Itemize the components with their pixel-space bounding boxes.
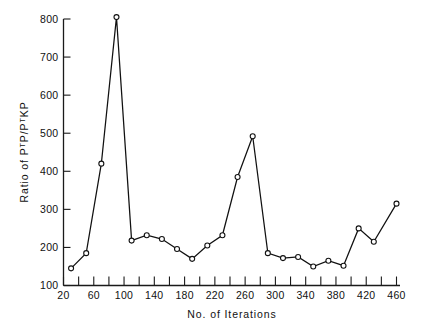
data-point: 50, 185 bbox=[84, 251, 89, 256]
data-point: 370, 165 bbox=[326, 258, 331, 263]
x-tick-label: 140 bbox=[145, 289, 163, 301]
y-tick-label: 800 bbox=[40, 13, 58, 25]
data-point: 270, 492 bbox=[250, 134, 255, 139]
data-point: 330, 175 bbox=[296, 254, 301, 259]
data-point: 410, 250 bbox=[356, 226, 361, 231]
x-tick-label: 60 bbox=[88, 289, 100, 301]
data-point: 350, 150 bbox=[311, 264, 316, 269]
chart-page: 100200300400500600700800 206010014018022… bbox=[0, 0, 426, 330]
x-tick-label: 20 bbox=[57, 289, 69, 301]
data-point: 290, 185 bbox=[265, 251, 270, 256]
data-point: 250, 385 bbox=[235, 175, 240, 180]
x-tick-label: 460 bbox=[387, 289, 405, 301]
x-tick-label: 220 bbox=[206, 289, 224, 301]
x-tick-label: 100 bbox=[115, 289, 133, 301]
data-point: 30, 145 bbox=[69, 266, 74, 271]
data-point: 90, 805 bbox=[114, 15, 119, 20]
series-line-ptp-ptkp bbox=[71, 17, 396, 268]
data-point: 210, 205 bbox=[205, 243, 210, 248]
x-tick-label: 420 bbox=[357, 289, 375, 301]
y-tick-label: 200 bbox=[40, 241, 58, 253]
x-tick-label: 260 bbox=[236, 289, 254, 301]
series-markers: 30, 14550, 18570, 42090, 805110, 218130,… bbox=[69, 15, 399, 271]
data-point: 460, 315 bbox=[394, 201, 399, 206]
x-tick-label: 340 bbox=[296, 289, 314, 301]
data-point: 70, 420 bbox=[99, 161, 104, 166]
data-point: 230, 232 bbox=[220, 233, 225, 238]
y-axis-title-mid: P/P bbox=[18, 123, 30, 143]
data-point: 430, 215 bbox=[371, 239, 376, 244]
data-point: 310, 172 bbox=[280, 256, 285, 261]
data-point: 150, 222 bbox=[159, 237, 164, 242]
svg-text:Ratio of PTP/PTKP: Ratio of PTP/PTKP bbox=[18, 101, 30, 202]
data-point: 170, 196 bbox=[175, 246, 180, 251]
y-tick-label: 100 bbox=[40, 279, 58, 291]
x-axis-ticks bbox=[64, 277, 397, 286]
x-axis-title: No. of Iterations bbox=[187, 308, 276, 320]
y-axis-title-prefix: Ratio of P bbox=[18, 147, 30, 202]
y-tick-label: 700 bbox=[40, 51, 58, 63]
x-tick-label: 180 bbox=[175, 289, 193, 301]
y-axis-ticks bbox=[64, 19, 71, 286]
y-axis-tick-labels: 100200300400500600700800 bbox=[40, 13, 58, 292]
x-tick-label: 380 bbox=[327, 289, 345, 301]
data-point: 190, 170 bbox=[190, 256, 195, 261]
data-point: 110, 218 bbox=[129, 238, 134, 243]
y-tick-label: 300 bbox=[40, 203, 58, 215]
x-tick-label: 300 bbox=[266, 289, 284, 301]
line-chart: 100200300400500600700800 206010014018022… bbox=[0, 0, 426, 330]
y-tick-label: 500 bbox=[40, 127, 58, 139]
chart-axes bbox=[64, 19, 401, 286]
y-tick-label: 400 bbox=[40, 165, 58, 177]
y-tick-label: 600 bbox=[40, 89, 58, 101]
y-axis-title-suffix: KP bbox=[18, 101, 30, 117]
data-point: 390, 152 bbox=[341, 263, 346, 268]
data-point: 130, 232 bbox=[144, 233, 149, 238]
x-axis-tick-labels: 2060100140180220260300340380420460 bbox=[57, 289, 405, 301]
y-axis-title: Ratio of PTP/PTKP bbox=[18, 101, 30, 202]
